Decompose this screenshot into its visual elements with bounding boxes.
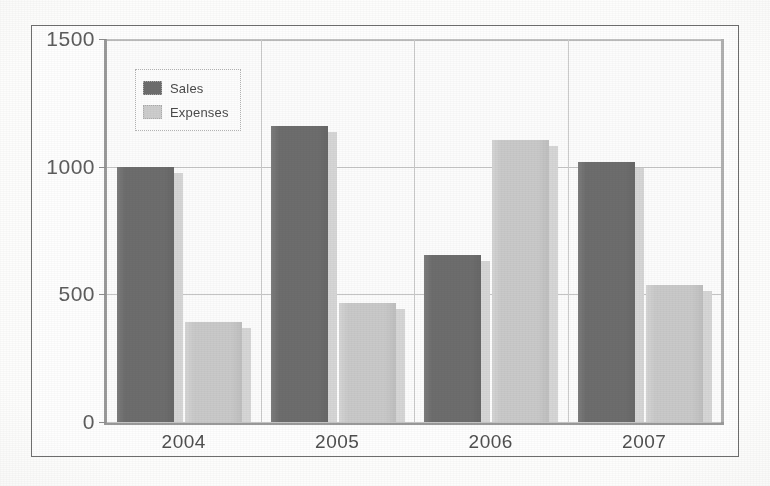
y-tick-label-500: 500	[58, 282, 95, 306]
legend-label-sales: Sales	[170, 81, 204, 96]
gridline-x-3	[568, 39, 569, 422]
bar-sales-2005[interactable]	[271, 126, 328, 422]
bar-sales-2006[interactable]	[424, 255, 481, 422]
bar-expenses-2005[interactable]	[339, 303, 396, 422]
chart-figure-frame: 050010001500 2004200520062007 Sales Expe…	[31, 25, 739, 457]
bar-expenses-2007[interactable]	[646, 285, 703, 422]
expenses-color-swatch	[143, 105, 162, 119]
y-tick-mark-0	[99, 422, 106, 423]
legend-label-expenses: Expenses	[170, 105, 229, 120]
gridline-y-0	[107, 422, 721, 423]
y-tick-mark-1500	[99, 39, 106, 40]
y-tick-label-1500: 1500	[46, 27, 95, 51]
legend-item-sales[interactable]: Sales	[143, 76, 234, 100]
x-tick-label-2005: 2005	[315, 431, 359, 453]
plot-right-spine	[721, 39, 724, 425]
x-tick-label-2007: 2007	[622, 431, 666, 453]
x-tick-label-2004: 2004	[162, 431, 206, 453]
y-axis-spine	[104, 39, 107, 425]
gridline-x-2	[414, 39, 415, 422]
bar-expenses-2006[interactable]	[492, 140, 549, 422]
legend-item-expenses[interactable]: Expenses	[143, 100, 234, 124]
y-tick-mark-500	[99, 294, 106, 295]
y-tick-label-1000: 1000	[46, 155, 95, 179]
bar-expenses-2004[interactable]	[185, 322, 242, 422]
chart-legend[interactable]: Sales Expenses	[135, 69, 241, 131]
x-tick-label-2006: 2006	[469, 431, 513, 453]
scanned-page-background: 050010001500 2004200520062007 Sales Expe…	[0, 0, 770, 486]
plot-area: 050010001500 2004200520062007 Sales Expe…	[107, 39, 721, 422]
gridline-x-1	[261, 39, 262, 422]
sales-color-swatch	[143, 81, 162, 95]
bar-sales-2007[interactable]	[578, 162, 635, 422]
bar-sales-2004[interactable]	[117, 167, 174, 422]
y-tick-mark-1000	[99, 167, 106, 168]
y-tick-label-0: 0	[83, 410, 95, 434]
